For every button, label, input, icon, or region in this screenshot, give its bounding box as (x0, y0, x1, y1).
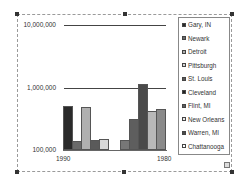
x-tick-label-1990: 1990 (56, 155, 70, 162)
legend-item: Chattanooga (179, 140, 229, 154)
y-tick-label-top: 10,000,000 (10, 21, 56, 28)
legend-item: Cleveland (179, 86, 229, 100)
chart-legend[interactable]: Gary, IN Newark Detroit Pittsburgh St. L… (178, 17, 230, 155)
x-tick-label-1980: 1980 (157, 155, 171, 162)
legend-swatch-icon (182, 144, 186, 148)
legend-swatch-icon (182, 63, 186, 67)
legend-swatch-icon (182, 131, 186, 135)
bar-chattanooga-1980 (156, 109, 166, 150)
legend-item: Detroit (179, 45, 229, 59)
x-axis-baseline (63, 150, 167, 151)
bar-stlouis-1990 (99, 139, 109, 150)
legend-item: Warren, MI (179, 126, 229, 140)
legend-item: Gary, IN (179, 18, 229, 32)
resize-handle-top-left[interactable] (15, 12, 19, 16)
legend-swatch-icon (182, 90, 186, 94)
legend-item: New Orleans (179, 113, 229, 127)
legend-swatch-icon (182, 36, 186, 40)
resize-handle-bottom-center[interactable] (122, 170, 126, 174)
legend-item: St. Louis (179, 72, 229, 86)
gridline-1m (64, 88, 166, 89)
resize-handle-bottom-left[interactable] (15, 170, 19, 174)
resize-grip-icon[interactable] (224, 162, 230, 168)
resize-handle-bottom-right[interactable] (230, 170, 234, 174)
legend-item: Newark (179, 32, 229, 46)
legend-item: Flint, MI (179, 99, 229, 113)
legend-swatch-icon (182, 50, 186, 54)
y-tick-label-mid: 1,000,000 (10, 84, 56, 91)
legend-swatch-icon (182, 104, 186, 108)
legend-item: Pittsburgh (179, 59, 229, 73)
legend-swatch-icon (182, 117, 186, 121)
resize-handle-top-center[interactable] (123, 12, 127, 16)
legend-swatch-icon (182, 23, 186, 27)
legend-swatch-icon (182, 77, 186, 81)
y-tick-label-bottom: 100,000 (10, 146, 56, 153)
gridline-10m (64, 25, 166, 26)
resize-handle-top-right[interactable] (230, 12, 234, 16)
